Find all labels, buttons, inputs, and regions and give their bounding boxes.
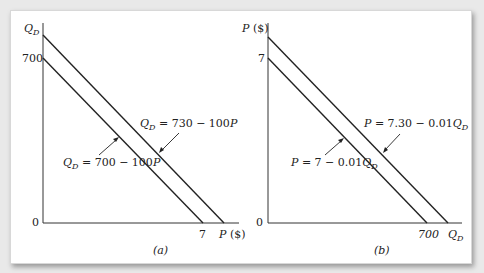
panel-b-curve-7-30 <box>268 37 448 223</box>
panel-a-curve-700 <box>43 58 203 223</box>
panel-a-origin: 0 <box>32 216 39 229</box>
panel-a-x-axis-label: P ($) <box>218 228 245 241</box>
panel-b-origin: 0 <box>256 216 263 229</box>
panel-a-x-tick-7: 7 <box>199 228 206 241</box>
panel-b-curve-7 <box>268 58 427 223</box>
panel-b-y-tick-7: 7 <box>258 52 265 65</box>
panel-a-lower-arrow <box>99 140 116 155</box>
panel-b-y-axis-label: P ($) <box>241 22 268 35</box>
panel-b-lower-equation: P = 7 − 0.01QD <box>290 156 378 171</box>
panel-a-lower-arrowhead-icon <box>113 137 119 142</box>
panel-b-upper-equation: P = 7.30 − 0.01QD <box>363 117 469 132</box>
panel-b: P ($) 7 0 700 QD (b) P = 7.30 − 0.01QD P… <box>241 22 469 257</box>
panel-a-upper-arrow <box>161 133 179 151</box>
demand-curves-figure: QD 700 0 7 P ($) (a) QD = 730 − 100P QD … <box>0 0 484 273</box>
panel-a-lower-equation: QD = 700 − 100P <box>63 156 161 171</box>
panel-b-caption: (b) <box>374 244 390 257</box>
panel-a: QD 700 0 7 P ($) (a) QD = 730 − 100P QD … <box>22 22 245 257</box>
panel-b-upper-arrow <box>385 134 400 150</box>
panel-a-upper-equation: QD = 730 − 100P <box>140 117 238 132</box>
panel-a-y-tick-700: 700 <box>22 52 43 65</box>
panel-a-caption: (a) <box>153 244 168 257</box>
panel-b-x-axis-label: QD <box>448 228 464 243</box>
panel-a-y-axis-label: QD <box>24 22 40 37</box>
panel-a-upper-arrowhead-icon <box>159 147 164 153</box>
panel-b-lower-arrow <box>325 141 341 155</box>
panel-b-x-tick-700: 700 <box>418 228 439 241</box>
